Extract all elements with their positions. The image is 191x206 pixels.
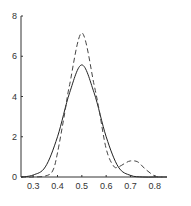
series-solid-line bbox=[21, 65, 167, 177]
y-tick-label: 4 bbox=[12, 92, 17, 102]
y-tick-label: 6 bbox=[12, 51, 17, 61]
x-tick-label: 0.4 bbox=[51, 181, 64, 191]
plot-area bbox=[21, 33, 167, 177]
y-tick-label: 2 bbox=[12, 132, 17, 142]
x-tick-label: 0.5 bbox=[76, 181, 89, 191]
axes bbox=[21, 16, 167, 177]
chart-svg: 0.30.40.50.60.70.8 02468 bbox=[0, 0, 191, 206]
y-tick-label: 0 bbox=[12, 172, 17, 182]
series-dashed-line bbox=[21, 33, 162, 177]
x-tick-label: 0.7 bbox=[124, 181, 137, 191]
x-tick-label: 0.6 bbox=[100, 181, 113, 191]
x-tick-label: 0.8 bbox=[149, 181, 162, 191]
x-tick-label: 0.3 bbox=[27, 181, 40, 191]
y-tick-label: 8 bbox=[12, 11, 17, 21]
